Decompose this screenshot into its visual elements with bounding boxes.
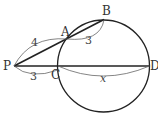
label-pa: 4	[31, 36, 38, 49]
point-d: D	[150, 59, 158, 73]
label-ab: 3	[85, 34, 92, 47]
label-cd: x	[100, 72, 107, 85]
label-pc: 3	[30, 70, 37, 83]
diagram-canvas: 4 3 3 x P A B C D	[0, 0, 158, 116]
secant-diagram: 4 3 3 x P A B C D	[0, 0, 158, 116]
point-p: P	[3, 59, 11, 73]
point-c: C	[51, 68, 60, 82]
point-b: B	[102, 4, 111, 18]
point-a: A	[60, 25, 70, 39]
